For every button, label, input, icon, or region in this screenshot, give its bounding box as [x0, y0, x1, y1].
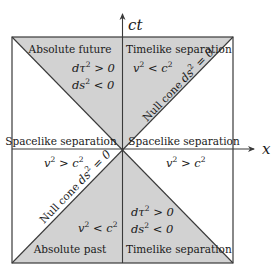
absolute-future-dtau: dτ2 > 0: [72, 60, 115, 75]
ct-axis-label: ct: [128, 16, 143, 34]
spacelike-separation-right-label: Spacelike separation: [128, 135, 240, 147]
timelike-separation-upper-label: Timelike separation: [126, 43, 232, 55]
timelike-lower-ds: ds2 < 0: [131, 221, 173, 236]
absolute-past-velocity: v2 < c2: [78, 220, 118, 235]
spacelike-left-velocity: v2 > c2: [44, 155, 84, 170]
absolute-future-ds: ds2 < 0: [72, 77, 114, 92]
timelike-upper-velocity: v2 < c2: [133, 60, 173, 75]
timelike-lower-dtau: dτ2 > 0: [131, 204, 174, 219]
absolute-future-label: Absolute future: [28, 43, 112, 55]
spacelike-right-velocity: v2 > c2: [166, 155, 206, 170]
absolute-past-label: Absolute past: [33, 243, 107, 255]
spacelike-separation-left-label: Spacelike separation: [5, 135, 117, 147]
x-axis-label: x: [262, 140, 271, 158]
timelike-separation-lower-label: Timelike separation: [126, 243, 232, 255]
light-cone-diagram: ct x Absolute future dτ2 > 0 ds2 < 0 Tim…: [0, 0, 280, 276]
